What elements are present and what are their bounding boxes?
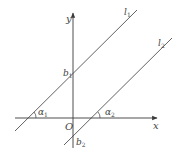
intercept-b2-label: b2	[76, 137, 86, 148]
x-axis-label: x	[153, 120, 159, 131]
angle-arc-alpha2	[98, 112, 100, 118]
angle-alpha1-label: α1	[38, 107, 48, 118]
line-l1-label: l1	[124, 7, 131, 18]
intercept-b1-label: b1	[63, 68, 73, 79]
y-axis-label: y	[65, 13, 72, 24]
coordinate-diagram: y x O l1 l2 b1 b2 α1 α2	[0, 0, 180, 166]
line-l2-label: l2	[158, 38, 165, 49]
angle-alpha2-label: α2	[105, 107, 115, 118]
angle-arc-alpha1	[34, 112, 36, 118]
origin-label: O	[65, 121, 73, 132]
line-l1	[15, 10, 137, 131]
